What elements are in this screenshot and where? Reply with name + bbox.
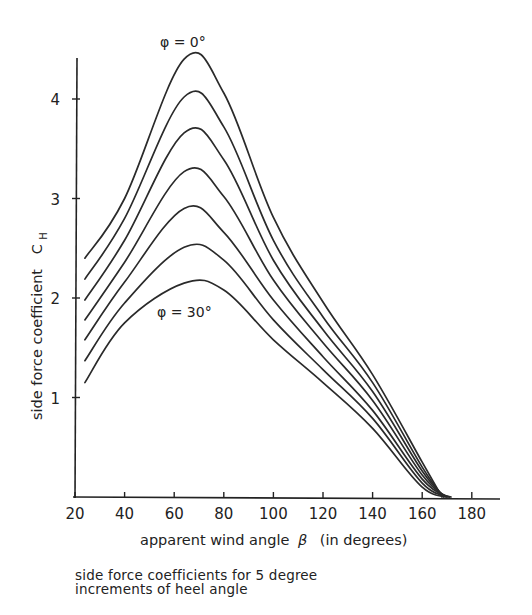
figure-caption: side force coefficients for 5 degree inc… (75, 568, 317, 596)
chart-labels: φ = 0° φ = 30° apparent wind angle β (in… (29, 34, 407, 548)
x-tick-label: 160 (408, 505, 437, 523)
x-tick-label: 120 (309, 505, 338, 523)
x-tick-label: 40 (115, 505, 134, 523)
y-axis (75, 58, 77, 498)
x-axis-units: (in degrees) (320, 532, 408, 548)
annotation-phi-0: φ = 0° (160, 34, 206, 50)
annotation-phi-30: φ = 30° (157, 304, 212, 320)
x-tick-label: 180 (457, 505, 486, 523)
x-tick-label: 60 (165, 505, 184, 523)
curve-heel-25 (85, 244, 450, 497)
y-tick-label: 1 (50, 390, 60, 408)
x-tick-label: 140 (358, 505, 387, 523)
y-axis-label-text: side force coefficient (29, 269, 45, 420)
chart: 204060801001201401601801234 φ = 0° φ = 3… (0, 0, 532, 615)
svg-text:side force coefficient: side force coefficient C H (29, 232, 49, 420)
x-axis-label-text: apparent wind angle (140, 532, 289, 548)
x-tick-label: 80 (214, 505, 233, 523)
x-tick-label: 20 (65, 505, 84, 523)
x-axis-label: apparent wind angle β (in degrees) (140, 532, 407, 548)
curve-heel-5 (85, 91, 444, 497)
y-tick-label: 4 (50, 91, 60, 109)
curves (85, 52, 451, 497)
y-tick-label: 2 (50, 290, 60, 308)
x-axis-symbol-beta: β (297, 532, 307, 548)
x-tick-label: 100 (259, 505, 288, 523)
curve-heel-0 (85, 52, 442, 497)
y-axis-subscript: H (38, 232, 49, 240)
x-axis (73, 497, 500, 499)
y-tick-label: 3 (50, 191, 60, 209)
y-axis-symbol: C (29, 244, 45, 254)
y-axis-label: side force coefficient C H (29, 232, 49, 420)
